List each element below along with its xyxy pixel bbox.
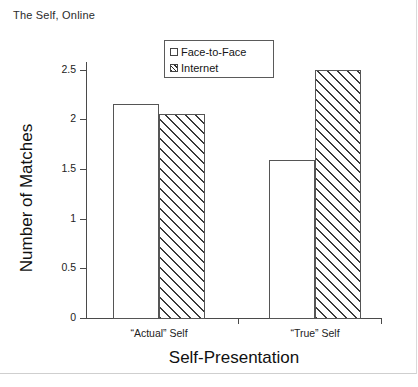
legend-label-face-to-face: Face-to-Face bbox=[181, 46, 246, 58]
y-axis-line bbox=[86, 62, 87, 319]
hatched-square-icon bbox=[170, 64, 178, 72]
y-tick-label-wrap-0: 0 bbox=[48, 318, 76, 319]
x-tick-end bbox=[381, 318, 382, 324]
y-tick-label-wrap-1.5: 1.5 bbox=[48, 169, 76, 170]
legend-label-internet: Internet bbox=[181, 62, 218, 74]
legend-item-face-to-face: Face-to-Face bbox=[170, 44, 273, 59]
y-tick-1.5 bbox=[80, 169, 86, 170]
bar-chart-plot: 2.5 2 1.5 1 0.5 0 “Actual” bbox=[0, 0, 418, 387]
x-category-label-actual: “Actual” Self bbox=[99, 327, 219, 339]
x-tick-divider bbox=[238, 318, 239, 324]
y-tick-label-1: 1 bbox=[48, 212, 76, 224]
bar-true-face-to-face bbox=[269, 160, 315, 319]
y-tick-label-2: 2 bbox=[48, 112, 76, 124]
bar-actual-face-to-face bbox=[113, 104, 159, 319]
y-tick-2 bbox=[80, 119, 86, 120]
y-tick-label-wrap-0.5: 0.5 bbox=[48, 268, 76, 269]
y-tick-0 bbox=[80, 318, 86, 319]
y-tick-label-wrap-2: 2 bbox=[48, 119, 76, 120]
y-tick-label-wrap-1: 1 bbox=[48, 219, 76, 220]
y-tick-1 bbox=[80, 219, 86, 220]
chart-legend: Face-to-Face Internet bbox=[164, 40, 274, 78]
y-tick-0.5 bbox=[80, 268, 86, 269]
white-square-icon bbox=[170, 48, 178, 56]
y-tick-label-wrap-2.5: 2.5 bbox=[48, 70, 76, 71]
chart-page: The Self, Online 2.5 2 1.5 1 0.5 0 bbox=[0, 0, 418, 387]
x-axis-title: Self-Presentation bbox=[86, 348, 382, 368]
y-tick-label-1.5: 1.5 bbox=[48, 162, 76, 174]
x-category-label-true: “True” Self bbox=[255, 327, 375, 339]
bar-true-internet bbox=[315, 70, 361, 319]
y-tick-label-0.5: 0.5 bbox=[48, 261, 76, 273]
legend-item-internet: Internet bbox=[170, 60, 273, 75]
y-tick-label-2.5: 2.5 bbox=[48, 63, 76, 75]
bar-actual-internet bbox=[159, 114, 205, 319]
y-tick-label-0: 0 bbox=[48, 311, 76, 323]
y-tick-2.5 bbox=[80, 70, 86, 71]
y-axis-title: Number of Matches bbox=[17, 108, 37, 288]
